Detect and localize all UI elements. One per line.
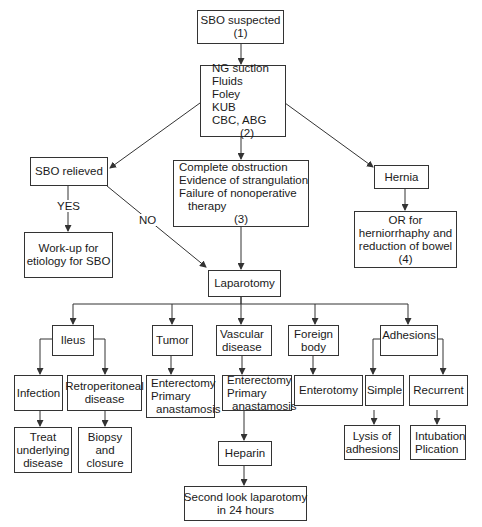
node-text: Vascular bbox=[220, 328, 264, 341]
node-text: (1) bbox=[233, 27, 247, 40]
node-text: Lysis of bbox=[353, 430, 392, 443]
node-text: disease bbox=[222, 341, 262, 354]
node-text: Plication bbox=[415, 443, 458, 456]
node-text: Enterectomy bbox=[151, 377, 216, 390]
node-lysis: Lysis of adhesions bbox=[344, 425, 400, 460]
node-text: Enterectomy bbox=[227, 374, 292, 387]
edge-ileus-infection bbox=[40, 339, 52, 374]
node-text: Complete obstruction bbox=[179, 161, 288, 174]
node-sbo-relieved: SBO relieved bbox=[30, 157, 108, 186]
node-text: Failure of nonoperative bbox=[179, 187, 297, 200]
node-text: Retroperitoneal bbox=[65, 380, 144, 393]
node-text: Foley bbox=[212, 88, 240, 101]
node-text: anastamosis bbox=[156, 403, 221, 416]
node-text: therapy bbox=[188, 200, 226, 213]
node-text: Fluids bbox=[212, 75, 243, 88]
node-text: Simple bbox=[367, 384, 402, 397]
edge-label-no: NO bbox=[138, 214, 157, 226]
node-text: reduction of bowel bbox=[359, 240, 452, 253]
edge-workup-hernia bbox=[285, 103, 373, 167]
node-text: closure bbox=[86, 457, 123, 470]
node-text: and bbox=[95, 444, 114, 457]
node-text: herniorrhaphy and bbox=[359, 227, 452, 240]
node-adhesions: Adhesions bbox=[380, 325, 438, 356]
node-text: Evidence of strangulation bbox=[179, 174, 308, 187]
node-text: Intubation bbox=[415, 430, 466, 443]
node-initial-workup: NG suction Fluids Foley KUB CBC, ABG (2) bbox=[200, 65, 286, 137]
node-text: Enterotomy bbox=[299, 384, 358, 397]
node-text: underlying bbox=[16, 444, 69, 457]
node-text: Recurrent bbox=[413, 384, 464, 397]
node-sbo-suspected: SBO suspected (1) bbox=[197, 10, 284, 44]
node-text: Tumor bbox=[156, 334, 189, 347]
node-text: Biopsy bbox=[88, 431, 123, 444]
node-vascular-disease: Vascular disease bbox=[216, 325, 272, 356]
node-text: Heparin bbox=[225, 447, 265, 460]
node-text: Work-up for bbox=[39, 242, 99, 255]
node-text: Treat bbox=[30, 431, 56, 444]
node-heparin: Heparin bbox=[218, 441, 272, 466]
edge-workup-relieved bbox=[110, 103, 200, 168]
node-surgical-indications: Complete obstruction Evidence of strangu… bbox=[173, 160, 309, 227]
edge-label-yes: YES bbox=[56, 200, 81, 212]
node-text: Second look laparotomy bbox=[184, 491, 307, 504]
node-ileus: Ileus bbox=[52, 325, 94, 356]
node-text: CBC, ABG bbox=[212, 114, 266, 127]
node-workup-etiology: Work-up for etiology for SBO bbox=[24, 232, 113, 278]
node-text: KUB bbox=[212, 101, 236, 114]
node-text: SBO relieved bbox=[35, 165, 103, 178]
node-text: Laparotomy bbox=[214, 277, 275, 290]
edge-adhesions-simple bbox=[373, 339, 380, 374]
node-text: Foreign bbox=[294, 328, 333, 341]
node-enterotomy: Enterotomy bbox=[294, 375, 363, 406]
node-text: NG suction bbox=[212, 62, 269, 75]
node-retroperitoneal: Retroperitoneal disease bbox=[67, 375, 142, 411]
node-simple: Simple bbox=[365, 375, 404, 406]
node-text: (2) bbox=[240, 127, 254, 140]
edge-ileus-retro bbox=[93, 339, 105, 374]
node-or-hernia: OR for herniorrhaphy and reduction of bo… bbox=[354, 211, 457, 268]
node-intubation: Intubation Plication bbox=[410, 425, 466, 460]
node-tumor: Tumor bbox=[152, 325, 193, 356]
node-second-look: Second look laparotomy in 24 hours bbox=[184, 486, 307, 521]
node-text: adhesions bbox=[346, 443, 398, 456]
node-text: Hernia bbox=[385, 171, 419, 184]
node-text: body bbox=[301, 341, 326, 354]
node-biopsy-closure: Biopsy and closure bbox=[78, 427, 132, 473]
node-hernia: Hernia bbox=[374, 165, 429, 189]
node-text: SBO suspected bbox=[201, 14, 281, 27]
node-text: in 24 hours bbox=[217, 504, 274, 517]
node-recurrent: Recurrent bbox=[409, 375, 468, 406]
node-text: Adhesions bbox=[382, 329, 436, 342]
node-text: (4) bbox=[398, 253, 412, 266]
node-text: Primary bbox=[227, 387, 267, 400]
node-text: Ileus bbox=[61, 334, 85, 347]
node-text: etiology for SBO bbox=[27, 255, 111, 268]
node-text: disease bbox=[85, 393, 125, 406]
node-treat-underlying: Treat underlying disease bbox=[14, 427, 72, 473]
node-text: (3) bbox=[234, 213, 248, 226]
node-text: disease bbox=[23, 457, 63, 470]
node-foreign-body: Foreign body bbox=[288, 325, 339, 356]
node-text: Primary bbox=[151, 390, 191, 403]
node-infection: Infection bbox=[14, 375, 63, 411]
node-text: OR for bbox=[389, 214, 423, 227]
node-text: Infection bbox=[17, 387, 60, 400]
node-tumor-treatment: Enterectomy Primary anastamosis bbox=[146, 375, 215, 418]
node-vascular-treatment: Enterectomy Primary anastamosis bbox=[222, 375, 292, 411]
node-text: anastamosis bbox=[232, 400, 297, 413]
node-laparotomy: Laparotomy bbox=[208, 270, 281, 297]
